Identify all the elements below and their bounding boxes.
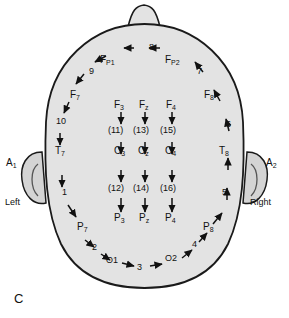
sequence-marker-10: 10 [56, 117, 66, 126]
sequence-marker-1: 1 [62, 188, 67, 197]
electrode-label-f3: F3 [114, 100, 124, 110]
electrode-label-f8: F8 [204, 90, 214, 100]
electrode-sub-t7: 7 [61, 150, 65, 157]
sequence-marker-13: (13) [133, 126, 149, 135]
electrode-label-p7: P7 [77, 222, 88, 232]
electrode-label-c3: C3 [114, 146, 125, 156]
orientation-label-left: Left [5, 198, 20, 207]
electrode-label-f7: F7 [70, 90, 80, 100]
electrode-sub-pz: z [146, 217, 150, 224]
sequence-marker-14: (14) [133, 184, 149, 193]
electrode-sub-p4: 4 [172, 217, 176, 224]
electrode-sub-fz: z [145, 104, 149, 111]
electrode-sub-c3: 3 [121, 150, 125, 157]
ear-reference-a1: A1 [6, 158, 17, 168]
sequence-marker-3: 3 [137, 263, 142, 272]
electrode-sub-f7: 7 [76, 94, 80, 101]
eeg-head-diagram: FP1 FP2 F7 F3 Fz F4 F8 T7 C3 Cz C4 T8 P7… [0, 0, 289, 318]
sequence-marker-2: 2 [92, 243, 97, 252]
electrode-sub-p3: 3 [121, 217, 125, 224]
sequence-marker-7: 7 [197, 67, 202, 76]
electrode-label-o2: O2 [165, 254, 177, 263]
electrode-label-f4: F4 [166, 100, 176, 110]
electrode-label-fp1: FP1 [100, 55, 115, 65]
right-ear-shape [243, 152, 267, 204]
electrode-label-c4: C4 [165, 146, 176, 156]
sequence-marker-9: 9 [89, 67, 94, 76]
electrode-sub-f8: 8 [210, 94, 214, 101]
electrode-label-t8: T8 [219, 146, 229, 156]
sequence-marker-15: (15) [160, 126, 176, 135]
panel-label: C [14, 292, 23, 305]
electrode-label-t7: T7 [55, 146, 65, 156]
sequence-marker-16: (16) [160, 184, 176, 193]
electrode-sub-fp2: P2 [171, 59, 180, 66]
sequence-marker-12: (12) [108, 184, 124, 193]
ear-reference-a1-sub: 1 [13, 162, 17, 169]
ear-reference-a2-sub: 2 [273, 162, 277, 169]
electrode-sub-f4: 4 [172, 104, 176, 111]
ear-reference-a2: A2 [266, 158, 277, 168]
sequence-marker-11: (11) [108, 126, 123, 135]
head-outline-svg [0, 0, 289, 318]
electrode-label-o1: O1 [106, 256, 118, 265]
orientation-label-right: Right [250, 198, 271, 207]
left-ear-shape [22, 152, 46, 204]
electrode-label-pz: Pz [139, 213, 149, 223]
electrode-sub-cz: z [145, 150, 149, 157]
electrode-label-fp2: FP2 [165, 55, 180, 65]
electrode-label-p3: P3 [114, 213, 125, 223]
electrode-label-p4: P4 [165, 213, 176, 223]
sequence-marker-6: 6 [226, 120, 231, 129]
electrode-sub-p7: 7 [84, 226, 88, 233]
electrode-label-p8: P8 [203, 222, 214, 232]
sequence-marker-8: 8 [149, 43, 154, 52]
electrode-label-fz: Fz [139, 100, 149, 110]
sequence-marker-4: 4 [192, 240, 197, 249]
electrode-sub-t8: 8 [225, 150, 229, 157]
electrode-sub-fp1: P1 [106, 59, 115, 66]
electrode-sub-c4: 4 [172, 150, 176, 157]
electrode-label-cz: Cz [138, 146, 149, 156]
sequence-marker-5: 5 [222, 188, 227, 197]
electrode-sub-p8: 8 [210, 226, 214, 233]
electrode-sub-f3: 3 [120, 104, 124, 111]
